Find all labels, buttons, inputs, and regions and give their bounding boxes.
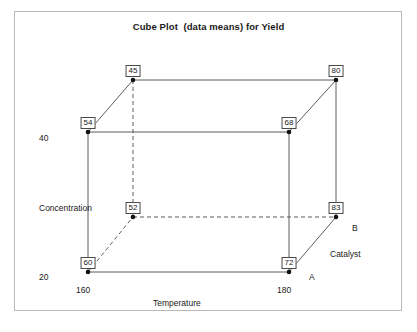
vertex-marker-back-bottom-left [131,215,136,220]
x-axis-tick-high: 180 [277,285,291,295]
vertex-marker-back-bottom-right [334,215,339,220]
value-label-back-top-left: 45 [126,65,141,77]
z-axis-tick-high: B [352,223,358,233]
value-label-front-bottom-right: 72 [282,257,297,269]
value-label-back-top-right: 80 [329,65,344,77]
z-axis-tick-low: A [309,272,315,282]
y-axis-title: Concentration [39,203,92,213]
cube-geometry [0,0,417,332]
y-axis-tick-high: 40 [39,133,48,143]
y-axis-tick-low: 20 [39,272,48,282]
vertex-marker-front-top-left [86,130,91,135]
value-label-back-bottom-left: 52 [126,202,141,214]
cube-plot-screen: Cube Plot (data means) for Yield [0,0,417,332]
x-axis-tick-low: 160 [76,285,90,295]
value-label-front-bottom-left: 60 [81,257,96,269]
vertex-marker-front-bottom-right [287,270,292,275]
x-axis-title: Temperature [153,298,201,308]
value-label-front-top-right: 68 [282,117,297,129]
z-axis-title: Catalyst [330,249,361,259]
value-label-front-top-left: 54 [81,117,96,129]
vertex-marker-front-top-right [287,130,292,135]
vertex-marker-back-top-left [131,78,136,83]
vertex-marker-back-top-right [334,78,339,83]
vertex-markers [86,78,339,275]
vertex-marker-front-bottom-left [86,270,91,275]
value-label-back-bottom-right: 83 [329,202,344,214]
